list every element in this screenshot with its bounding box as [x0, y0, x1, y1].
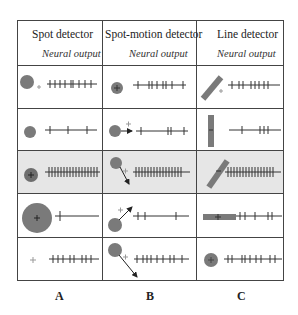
panel-label-a: A: [55, 289, 64, 304]
stimulus-and-spike-drawings: [0, 0, 298, 315]
panel-label-c: C: [237, 289, 246, 304]
panel-label-b: B: [146, 289, 154, 304]
